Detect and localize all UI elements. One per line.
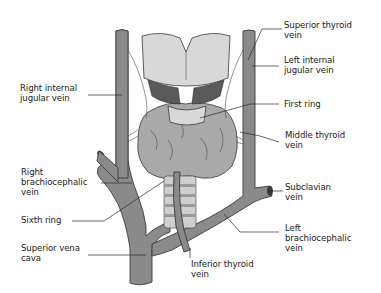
- label-first-ring: First ring: [284, 99, 321, 109]
- label-middle-thyroid-vein: Middle thyroid vein: [285, 130, 345, 150]
- label-sixth-ring: Sixth ring: [21, 215, 61, 225]
- label-inferior-thyroid-vein: Inferior thyroid vein: [191, 259, 253, 279]
- middle-thyroid-vein-right: [128, 130, 138, 142]
- right-ij-column: [116, 30, 128, 179]
- label-subclavian-vein: Subclavian vein: [285, 182, 331, 202]
- label-superior-thyroid-vein: Superior thyroid vein: [284, 20, 352, 40]
- label-left-internal-jugular-vein: Left internal jugular vein: [284, 55, 335, 75]
- label-right-internal-jugular-vein: Right internal jugular vein: [20, 83, 77, 103]
- label-left-brachiocephalic-vein: Left brachiocephalic vein: [285, 223, 351, 253]
- label-right-brachiocephalic-vein: Right brachiocephalic vein: [21, 167, 87, 197]
- label-superior-vena-cava: Superior vena cava: [21, 243, 80, 263]
